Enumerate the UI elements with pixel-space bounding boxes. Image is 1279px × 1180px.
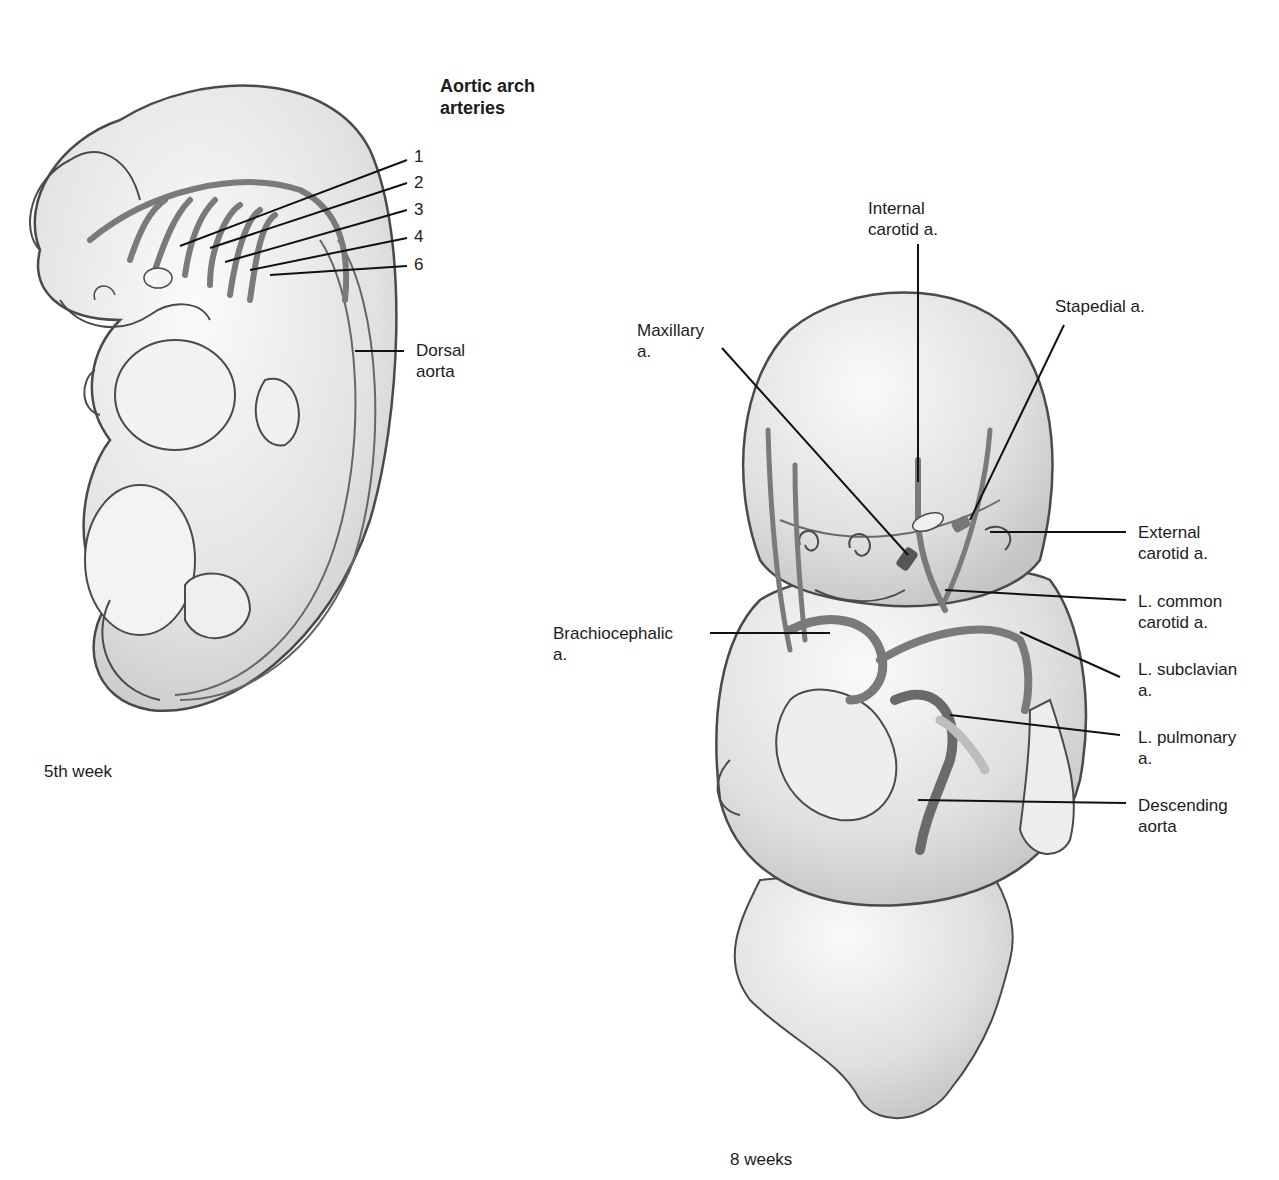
stapedial-label: Stapedial a. bbox=[1055, 296, 1145, 317]
arch-label-2: 2 bbox=[414, 172, 423, 193]
embryo-aortic-arch-figure: Aortic arch arteries 1 2 3 4 6 Dorsal ao… bbox=[0, 0, 1279, 1180]
illustration bbox=[0, 0, 1279, 1180]
internal-carotid-label: Internal carotid a. bbox=[868, 198, 938, 240]
brachiocephalic-label: Brachiocephalic a. bbox=[553, 623, 673, 665]
l-common-carotid-label: L. common carotid a. bbox=[1138, 591, 1222, 633]
l-subclavian-label: L. subclavian a. bbox=[1138, 659, 1237, 701]
embryo-8-weeks bbox=[716, 293, 1085, 1119]
aortic-arch-arteries-heading: Aortic arch arteries bbox=[440, 75, 535, 119]
descending-aorta-label: Descending aorta bbox=[1138, 795, 1228, 837]
external-carotid-label: External carotid a. bbox=[1138, 522, 1208, 564]
arch-label-3: 3 bbox=[414, 199, 423, 220]
caption-8-weeks: 8 weeks bbox=[730, 1150, 792, 1170]
l-pulmonary-label: L. pulmonary a. bbox=[1138, 727, 1236, 769]
embryo-5th-week bbox=[30, 86, 396, 711]
caption-5th-week: 5th week bbox=[44, 762, 112, 782]
arch-label-1: 1 bbox=[414, 146, 423, 167]
arch-label-4: 4 bbox=[414, 226, 423, 247]
arch-label-6: 6 bbox=[414, 254, 423, 275]
dorsal-aorta-label: Dorsal aorta bbox=[416, 340, 465, 382]
maxillary-label: Maxillary a. bbox=[637, 320, 704, 362]
